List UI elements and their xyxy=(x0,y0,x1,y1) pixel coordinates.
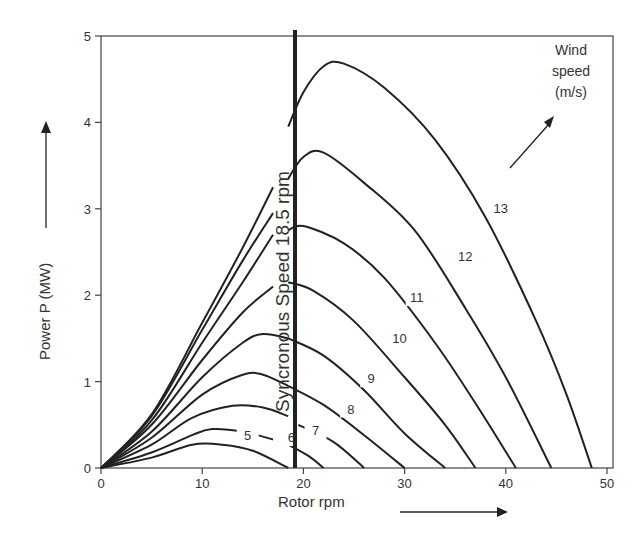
axis-ticks: 01020304050012345 xyxy=(84,29,614,491)
y-tick-label: 5 xyxy=(84,29,91,44)
x-tick-label: 40 xyxy=(499,476,513,491)
x-axis-label: Rotor rpm xyxy=(278,493,345,510)
curve-label-9: 9 xyxy=(368,371,375,386)
curve-13-left xyxy=(101,187,273,468)
curve-label-12: 12 xyxy=(458,249,472,264)
curve-label-8: 8 xyxy=(347,402,354,417)
wind-label-line2: speed xyxy=(552,63,590,79)
y-tick-label: 1 xyxy=(84,375,91,390)
x-tick-label: 10 xyxy=(195,476,209,491)
power-rpm-chart: 01020304050012345 5678910111213 Syncrono… xyxy=(0,0,640,546)
y-tick-label: 0 xyxy=(84,461,91,476)
x-arrow-head-icon xyxy=(497,507,508,517)
wind-arrow xyxy=(510,124,549,168)
curve-label-7: 7 xyxy=(312,423,319,438)
wind-label-line3: (m/s) xyxy=(555,84,587,100)
y-tick-label: 4 xyxy=(84,115,91,130)
curve-label-13: 13 xyxy=(494,201,508,216)
curve-label-5: 5 xyxy=(244,428,251,443)
curve-12-right xyxy=(288,151,551,468)
x-tick-label: 30 xyxy=(397,476,411,491)
y-axis-label: Power P (MW) xyxy=(36,263,53,360)
x-tick-label: 50 xyxy=(600,476,614,491)
wind-label-line1: Wind xyxy=(555,42,587,58)
x-tick-label: 20 xyxy=(296,476,310,491)
curve-9-right xyxy=(288,338,445,468)
x-tick-label: 0 xyxy=(97,476,104,491)
sync-speed-label: Syncronous Speed 18.5 rpm xyxy=(272,171,293,412)
wind-arrow-head-icon xyxy=(544,116,554,128)
curve-label-11: 11 xyxy=(410,290,424,305)
y-tick-label: 3 xyxy=(84,202,91,217)
y-tick-label: 2 xyxy=(84,288,91,303)
curve-label-10: 10 xyxy=(392,331,406,346)
y-arrow-head-icon xyxy=(41,121,51,133)
